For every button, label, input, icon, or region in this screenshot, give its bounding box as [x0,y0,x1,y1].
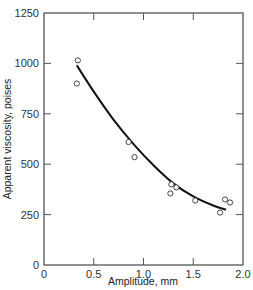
chart: 00.51.01.52.0025050075010001250 Amplitud… [0,0,253,290]
y-tick-label: 750 [21,108,39,120]
fitted-curve-line [77,65,226,209]
x-axis-label: Amplitude, mm [108,275,178,287]
y-tick-label: 500 [21,158,39,170]
data-points [74,58,232,215]
data-point-marker [218,210,223,215]
data-point-marker [222,197,227,202]
y-axis-label: Apparent viscosity, poises [1,79,13,200]
data-point-marker [75,58,80,63]
data-point-marker [193,198,198,203]
y-tick-label: 250 [21,209,39,221]
x-tick-label: 0 [41,268,47,280]
data-point-marker [169,182,174,187]
data-point-marker [132,155,137,160]
axis-ticks [44,13,243,265]
y-tick-label: 1000 [15,57,39,69]
data-point-marker [168,191,173,196]
fitted-curve [77,65,226,209]
x-tick-label: 0.5 [86,268,101,280]
data-point-marker [174,185,179,190]
data-point-marker [227,200,232,205]
data-point-marker [74,81,79,86]
data-point-marker [126,139,131,144]
y-tick-label: 0 [33,259,39,271]
plot-border [44,13,243,265]
x-tick-label: 2.0 [235,268,250,280]
plot-frame [44,13,243,265]
y-tick-label: 1250 [15,7,39,19]
x-tick-label: 1.5 [186,268,201,280]
